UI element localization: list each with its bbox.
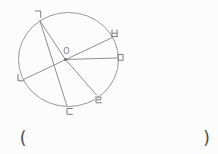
point-label-giyeok-glyph — [36, 11, 41, 17]
answer-open-bracket: ( — [20, 128, 27, 148]
segment-o-mieum — [66, 58, 117, 60]
answer-close-bracket: ) — [203, 128, 210, 148]
point-label-digeut-glyph — [67, 109, 72, 115]
geometry-diagram-svg: O ( ) — [0, 0, 218, 154]
worksheet-figure: O ( ) — [0, 0, 218, 154]
segment-giyeok-digeut — [40, 21, 67, 106]
point-label-bieup-glyph — [112, 30, 117, 37]
point-label-rieul-glyph — [96, 97, 102, 103]
center-point-dot — [64, 58, 67, 61]
center-point-label: O — [63, 47, 69, 56]
